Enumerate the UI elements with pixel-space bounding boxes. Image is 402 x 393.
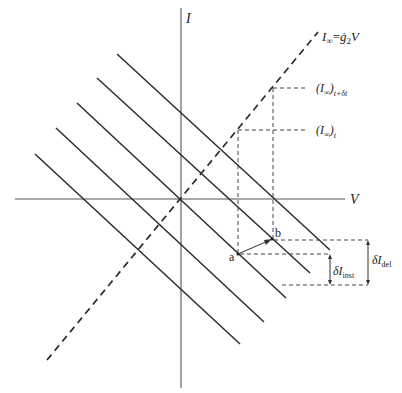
delta-del-label: δIdel — [372, 253, 392, 269]
delta-inst-arrowhead-top — [328, 254, 332, 259]
transition-arrow — [238, 241, 269, 255]
delta-inst-arrowhead-bottom — [328, 280, 332, 285]
point-b-label: b — [275, 226, 281, 240]
parallel-line-4 — [56, 128, 264, 322]
delta-del-arrowhead-top — [366, 240, 370, 245]
asymptote-label: I∞=ġ2V — [321, 29, 361, 46]
delta-inst-label: δIinst — [333, 264, 355, 280]
level-label-t: (I∞)t — [316, 123, 337, 140]
point-a-label: a — [229, 250, 235, 264]
asymptote-line — [47, 32, 318, 360]
parallel-line-2 — [97, 78, 310, 273]
iv-diagram: I V I∞=ġ2V (I∞)t+δt (I∞)t a b δIinst δId… — [0, 0, 402, 393]
transition-arrowhead — [264, 239, 272, 245]
i-axis-label: I — [185, 11, 192, 26]
parallel-line-1 — [117, 54, 330, 250]
level-label-t-dt: (I∞)t+δt — [316, 81, 348, 98]
delta-del-arrowhead-bottom — [366, 280, 370, 285]
parallel-line-5 — [35, 154, 240, 344]
v-axis-label: V — [350, 192, 360, 207]
